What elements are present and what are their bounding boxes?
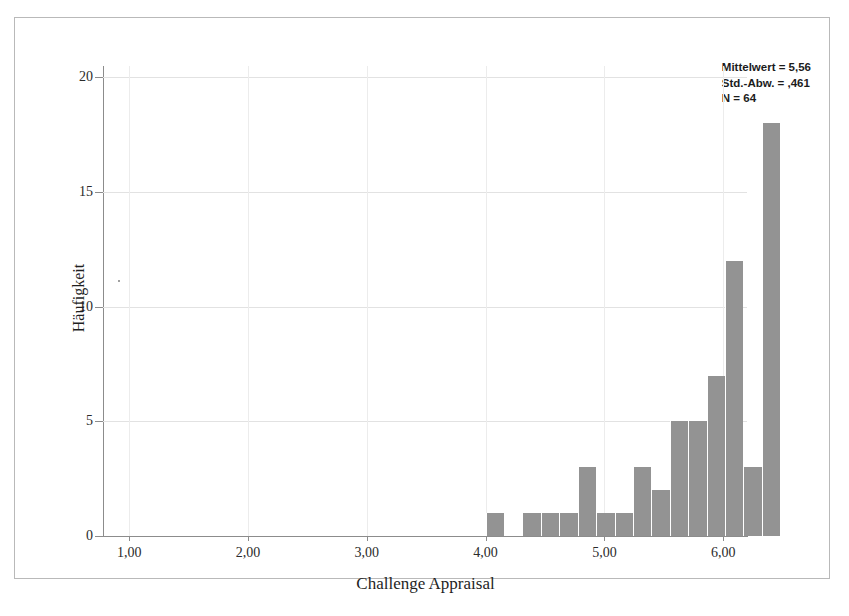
gridline-horizontal — [103, 77, 747, 78]
histogram-bar — [615, 513, 633, 536]
histogram-bar — [670, 421, 688, 536]
gridline-horizontal — [103, 192, 747, 193]
gridline-vertical — [129, 66, 130, 536]
y-axis-tick — [95, 536, 103, 537]
y-axis-title: Häufigkeit — [70, 264, 88, 332]
scan-speck — [118, 280, 120, 282]
gridline-horizontal — [103, 307, 747, 308]
histogram-bar — [743, 467, 761, 536]
x-axis-tick — [367, 536, 368, 541]
y-axis-tick — [95, 192, 103, 193]
gridline-vertical — [604, 66, 605, 536]
histogram-bar — [651, 490, 669, 536]
y-axis-tick — [95, 421, 103, 422]
x-axis-tick — [248, 536, 249, 541]
histogram-bar — [522, 513, 540, 536]
histogram-bar — [688, 421, 706, 536]
figure-frame: Mittelwert = 5,56 Std.-Abw. = ,461 N = 6… — [14, 17, 830, 579]
x-axis-tick-label: 4,00 — [473, 545, 498, 561]
x-axis-tick — [129, 536, 130, 541]
x-axis-tick — [723, 536, 724, 541]
x-axis-tick — [486, 536, 487, 541]
x-axis-tick-label: 5,00 — [592, 545, 617, 561]
y-axis-tick-label: 5 — [86, 413, 93, 429]
y-axis-tick-label: 0 — [86, 528, 93, 544]
x-axis-title: Challenge Appraisal — [103, 574, 748, 594]
histogram-bar — [541, 513, 559, 536]
x-axis-tick-label: 2,00 — [236, 545, 261, 561]
histogram-bar — [633, 467, 651, 536]
x-axis-tick-label: 6,00 — [711, 545, 736, 561]
gridline-horizontal — [103, 421, 747, 422]
x-axis-tick — [604, 536, 605, 541]
histogram-bar — [725, 261, 743, 536]
histogram-bar — [762, 123, 780, 536]
gridline-vertical — [486, 66, 487, 536]
gridline-vertical — [367, 66, 368, 536]
y-axis-tick-label: 15 — [79, 184, 93, 200]
plot-inner: 051015201,002,003,004,005,006,00 — [103, 66, 747, 536]
histogram-bar — [578, 467, 596, 536]
x-axis-tick-label: 1,00 — [117, 545, 142, 561]
histogram-bar — [559, 513, 577, 536]
x-axis-tick-label: 3,00 — [355, 545, 380, 561]
y-axis-tick — [95, 307, 103, 308]
y-axis-tick — [95, 77, 103, 78]
histogram-bar — [596, 513, 614, 536]
histogram-bar — [486, 513, 504, 536]
histogram-bar — [707, 376, 725, 536]
plot-area: 051015201,002,003,004,005,006,00 — [103, 66, 747, 536]
y-axis-tick-label: 20 — [79, 69, 93, 85]
gridline-vertical — [248, 66, 249, 536]
x-axis-line — [103, 536, 748, 537]
